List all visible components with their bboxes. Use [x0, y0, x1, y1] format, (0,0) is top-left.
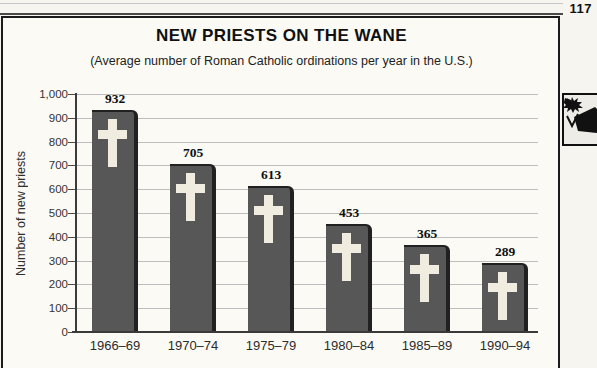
bar: [248, 186, 294, 332]
x-tick-label: 1975–79: [232, 338, 310, 353]
gridline: [76, 308, 538, 309]
bar-value-label: 453: [314, 205, 384, 221]
bar-value-label: 289: [470, 244, 540, 260]
cross-arm: [98, 130, 127, 139]
y-tick-label: 200: [16, 277, 68, 291]
cross-stem: [264, 195, 273, 243]
gridline: [76, 237, 538, 238]
y-tick-label: 700: [16, 158, 68, 172]
bar-value-label: 932: [80, 91, 150, 107]
top-rule-dark: [0, 13, 563, 15]
cross-icon: [488, 272, 517, 320]
gridline: [76, 118, 538, 119]
margin-illustration-box: [562, 93, 597, 146]
x-tick-label: 1966–69: [76, 338, 154, 353]
x-tick-label: 1980–84: [310, 338, 388, 353]
y-tick-label: 300: [16, 254, 68, 268]
page-number: 117: [562, 1, 592, 16]
gridline: [76, 189, 538, 190]
y-tick-label: 600: [16, 182, 68, 196]
bar-value-label: 365: [392, 226, 462, 242]
cross-stem: [420, 254, 429, 302]
bar: [326, 224, 372, 332]
cross-icon: [254, 195, 283, 243]
x-tick-label: 1985–89: [388, 338, 466, 353]
cross-icon: [410, 254, 439, 302]
gridline: [76, 213, 538, 214]
y-tick-label: 100: [16, 301, 68, 315]
bar: [404, 245, 450, 332]
chart-title: NEW PRIESTS ON THE WANE: [1, 26, 562, 46]
cross-stem: [108, 119, 117, 167]
y-tick-label: 1,000: [16, 87, 68, 101]
cross-arm: [410, 265, 439, 274]
cross-stem: [186, 173, 195, 221]
cross-icon: [176, 173, 205, 221]
bar: [482, 263, 528, 332]
bar: [92, 110, 138, 332]
scanned-book-page: 117 NEW PRIESTS ON THE WANE (Average num…: [0, 0, 597, 368]
cross-arm: [254, 206, 283, 215]
chart-subtitle: (Average number of Roman Catholic ordina…: [1, 54, 562, 68]
cross-arm: [176, 184, 205, 193]
x-tick-label: 1970–74: [154, 338, 232, 353]
x-tick-label: 1990–94: [466, 338, 544, 353]
gridline: [76, 284, 538, 285]
y-tick-label: 400: [16, 230, 68, 244]
bar-value-label: 705: [158, 145, 228, 161]
y-tick-label: 900: [16, 111, 68, 125]
cross-stem: [498, 272, 507, 320]
y-tick-label: 500: [16, 206, 68, 220]
top-rule-light: [0, 3, 563, 4]
cross-arm: [332, 244, 361, 253]
cross-stem: [342, 233, 351, 281]
woodcut-illustration-icon: [564, 95, 597, 144]
bar: [170, 164, 216, 332]
y-tick-label: 0: [16, 325, 68, 339]
bar-value-label: 613: [236, 167, 306, 183]
gridline: [76, 261, 538, 262]
y-axis-line: [75, 93, 77, 333]
gridline: [76, 142, 538, 143]
y-tick-label: 800: [16, 135, 68, 149]
gridline: [76, 165, 538, 166]
x-axis-line: [72, 331, 538, 333]
cross-arm: [488, 283, 517, 292]
cross-icon: [98, 119, 127, 167]
cross-icon: [332, 233, 361, 281]
